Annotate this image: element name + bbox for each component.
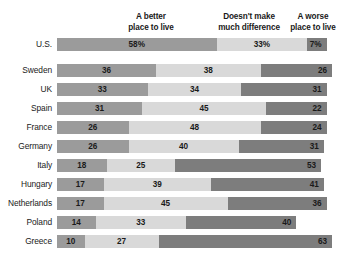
- segment-no-difference: 39: [104, 178, 211, 191]
- row-country-label: Germany: [0, 140, 52, 153]
- row-bar-track: 314522: [57, 102, 332, 115]
- row-country-label: France: [0, 121, 52, 134]
- segment-worse: 36: [228, 197, 327, 210]
- chart-row: U.S.58%33%7%: [0, 38, 344, 51]
- row-country-label: Greece: [0, 235, 52, 248]
- row-bar-track: 173941: [57, 178, 332, 191]
- row-bar-track: 174536: [57, 197, 332, 210]
- chart-row: Netherlands174536: [0, 197, 344, 210]
- row-country-label: Spain: [0, 102, 52, 115]
- chart-row: Sweden363826: [0, 64, 344, 77]
- segment-worse: 22: [266, 102, 327, 115]
- legend-header-worse-line2: place to live: [282, 22, 344, 33]
- legend-header-nodifference-line1: Doesn't make: [223, 12, 275, 21]
- chart-row: Spain314522: [0, 102, 344, 115]
- segment-no-difference: 45: [104, 197, 228, 210]
- chart-row: UK333431: [0, 83, 344, 96]
- row-country-label: UK: [0, 83, 52, 96]
- chart-row: Greece102763: [0, 235, 344, 248]
- legend-header-worse: A worse place to live: [282, 11, 344, 33]
- segment-worse: 31: [239, 140, 324, 153]
- chart-row: Hungary173941: [0, 178, 344, 191]
- legend-header-better-line2: place to live: [92, 22, 210, 33]
- segment-no-difference: 40: [129, 140, 239, 153]
- row-bar-track: 143340: [57, 216, 332, 229]
- row-country-label: Italy: [0, 159, 52, 172]
- segment-better: 18: [57, 159, 107, 172]
- segment-no-difference: 33%: [217, 38, 308, 51]
- segment-no-difference: 33: [96, 216, 187, 229]
- row-country-label: Hungary: [0, 178, 52, 191]
- legend-header-better-line1: A better: [136, 12, 166, 21]
- segment-no-difference: 48: [129, 121, 261, 134]
- segment-no-difference: 27: [85, 235, 159, 248]
- segment-better: 36: [57, 64, 156, 77]
- row-bar-track: 58%33%7%: [57, 38, 332, 51]
- chart-row: Poland143340: [0, 216, 344, 229]
- segment-better: 10: [57, 235, 85, 248]
- segment-no-difference: 34: [148, 83, 242, 96]
- segment-worse: 63: [159, 235, 332, 248]
- legend-header-better: A better place to live: [92, 11, 210, 33]
- chart-legend-headers: A better place to live Doesn't make much…: [0, 11, 344, 37]
- legend-header-nodifference-line2: much difference: [214, 22, 284, 33]
- segment-better: 58%: [57, 38, 217, 51]
- row-country-label: Netherlands: [0, 197, 52, 210]
- row-bar-track: 363826: [57, 64, 332, 77]
- row-bar-track: 264824: [57, 121, 332, 134]
- segment-better: 33: [57, 83, 148, 96]
- segment-worse: 31: [241, 83, 326, 96]
- segment-worse: 24: [261, 121, 327, 134]
- legend-header-nodifference: Doesn't make much difference: [214, 11, 284, 33]
- segment-better: 26: [57, 140, 129, 153]
- chart-row: Italy182553: [0, 159, 344, 172]
- row-bar-track: 182553: [57, 159, 332, 172]
- row-country-label: Sweden: [0, 64, 52, 77]
- segment-better: 17: [57, 197, 104, 210]
- row-country-label: Poland: [0, 216, 52, 229]
- segment-better: 14: [57, 216, 96, 229]
- segment-worse: 41: [211, 178, 324, 191]
- legend-header-worse-line1: A worse: [298, 12, 329, 21]
- segment-no-difference: 38: [156, 64, 261, 77]
- segment-worse: 53: [175, 159, 321, 172]
- segment-worse: 40: [186, 216, 296, 229]
- row-bar-track: 333431: [57, 83, 332, 96]
- row-country-label: U.S.: [0, 38, 52, 51]
- segment-worse: 26: [261, 64, 333, 77]
- segment-no-difference: 25: [107, 159, 176, 172]
- segment-better: 26: [57, 121, 129, 134]
- segment-better: 17: [57, 178, 104, 191]
- segment-better: 31: [57, 102, 142, 115]
- chart-rows: U.S.58%33%7%Sweden363826UK333431Spain314…: [0, 38, 344, 254]
- row-bar-track: 102763: [57, 235, 332, 248]
- chart-row: Germany264031: [0, 140, 344, 153]
- stacked-bar-chart: A better place to live Doesn't make much…: [0, 0, 344, 257]
- chart-row: France264824: [0, 121, 344, 134]
- segment-worse: 7%: [307, 38, 326, 51]
- row-bar-track: 264031: [57, 140, 332, 153]
- segment-no-difference: 45: [142, 102, 266, 115]
